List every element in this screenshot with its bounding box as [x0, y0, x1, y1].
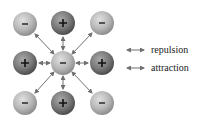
legend-attraction-label: attraction [151, 62, 189, 74]
positive-ion-ml [13, 51, 37, 75]
negative-ion-mc [51, 51, 75, 75]
negative-ion-tl [13, 12, 37, 36]
positive-ion-tc [51, 11, 75, 35]
negative-ion-br [90, 91, 114, 115]
legend-arrows [127, 50, 144, 68]
positive-ion-mr [90, 51, 114, 75]
repulsion-arrow-bl [35, 72, 54, 93]
repulsion-arrow-br [72, 72, 92, 93]
repulsion-arrow-tr [72, 33, 92, 54]
legend-repulsion-label: repulsion [151, 44, 188, 56]
negative-ion-bl [13, 91, 37, 115]
repulsion-arrow-tl [35, 34, 54, 54]
positive-ion-bc [51, 91, 75, 115]
negative-ion-tr [90, 11, 114, 35]
